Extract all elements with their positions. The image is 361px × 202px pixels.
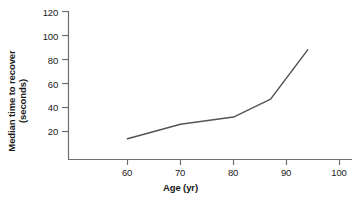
- data-line-median-time: [128, 50, 308, 139]
- x-axis-ticks: [128, 160, 340, 165]
- plot-area: [0, 0, 361, 202]
- chart-figure: Median time to recover (seconds) 120 100…: [0, 0, 361, 202]
- y-axis-ticks: [62, 12, 68, 132]
